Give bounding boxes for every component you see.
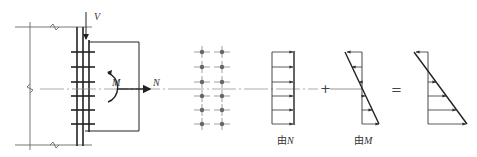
label-M: M	[111, 77, 121, 88]
stress-diagram-resultant	[414, 52, 467, 124]
bolt-stress-diagram: V M N	[0, 0, 477, 157]
label-from-N: 由N	[277, 134, 295, 146]
label-N: N	[152, 77, 161, 88]
bolt-dots	[200, 50, 224, 126]
label-from-M: 由M	[354, 134, 373, 146]
label-V: V	[94, 11, 102, 22]
equals-operator: =	[391, 82, 402, 97]
stress-diagram-M: 由M	[345, 52, 379, 146]
stress-diagram-N: 由N	[272, 51, 295, 146]
bolt-group-pattern	[180, 46, 318, 130]
plus-operator: +	[320, 81, 331, 96]
connection-elevation: V M N	[15, 11, 180, 150]
